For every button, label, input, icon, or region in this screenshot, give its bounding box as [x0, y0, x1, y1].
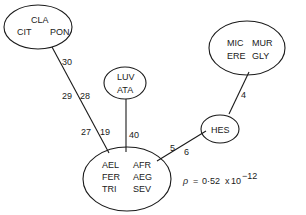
node-label-aeg: AEG: [133, 172, 152, 182]
node-mic-group: [209, 21, 285, 75]
rho-formula: ρ = 0·52 x 10 −12: [182, 171, 257, 186]
node-label-pon: PON: [50, 27, 70, 37]
edge-label-19: 19: [100, 127, 110, 137]
edge-label-40: 40: [129, 130, 139, 140]
node-label-hes: HES: [211, 125, 230, 135]
formula-mantissa: 0·52: [202, 176, 220, 186]
node-label-cla: CLA: [31, 15, 49, 25]
edge-label-30: 30: [62, 57, 72, 67]
edge-label-6: 6: [184, 147, 189, 157]
node-label-cit: CIT: [17, 27, 32, 37]
formula-base: 10: [231, 176, 241, 186]
edge-label-28: 28: [80, 91, 90, 101]
edge-label-27: 27: [81, 127, 91, 137]
edge-hes-ael: [157, 131, 206, 161]
formula-exponent: −12: [242, 171, 257, 181]
node-label-ael: AEL: [102, 160, 119, 170]
node-label-gly: GLY: [252, 51, 269, 61]
node-label-ata: ATA: [117, 85, 133, 95]
node-label-mic: MIC: [227, 38, 244, 48]
node-label-luv: LUV: [117, 72, 135, 82]
formula-symbol: ρ: [182, 176, 188, 186]
formula-times: x: [225, 176, 230, 186]
edge-label-29: 29: [62, 91, 72, 101]
node-label-afr: AFR: [133, 160, 152, 170]
node-label-ere: ERE: [227, 51, 246, 61]
formula-equals: =: [193, 176, 198, 186]
diagram-canvas: CLA CIT PON MIC MUR ERE GLY LUV ATA HES …: [0, 0, 306, 215]
node-label-fer: FER: [102, 172, 121, 182]
edge-label-4: 4: [241, 90, 246, 100]
node-label-tri: TRI: [102, 184, 117, 194]
edge-label-5: 5: [170, 143, 175, 153]
node-label-sev: SEV: [133, 184, 151, 194]
node-label-mur: MUR: [252, 38, 273, 48]
node-ael-group: [83, 147, 171, 211]
